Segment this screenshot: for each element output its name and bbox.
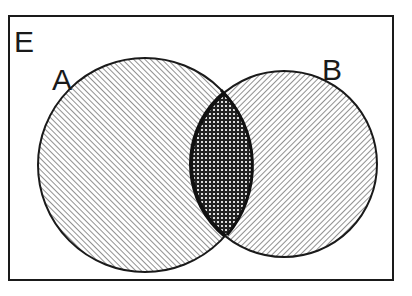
set-a-label: A [52,63,72,96]
universe-label: E [14,25,34,58]
set-b-label: B [322,53,342,86]
venn-diagram: E A B [0,0,412,296]
